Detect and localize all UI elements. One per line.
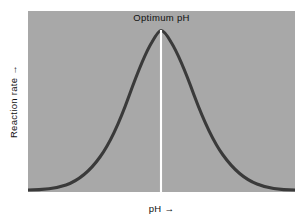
x-axis-label-wrapper: pH → bbox=[28, 198, 295, 216]
y-axis-label-wrapper: Reaction rate → bbox=[0, 0, 28, 203]
y-axis-label: Reaction rate → bbox=[9, 65, 20, 138]
x-axis-label: pH → bbox=[149, 203, 174, 214]
optimum-ph-label: Optimum pH bbox=[28, 12, 295, 23]
plot-panel: Optimum pH bbox=[28, 11, 295, 192]
figure-container: Optimum pH Reaction rate → pH → bbox=[0, 0, 308, 218]
plot-svg bbox=[28, 11, 295, 192]
